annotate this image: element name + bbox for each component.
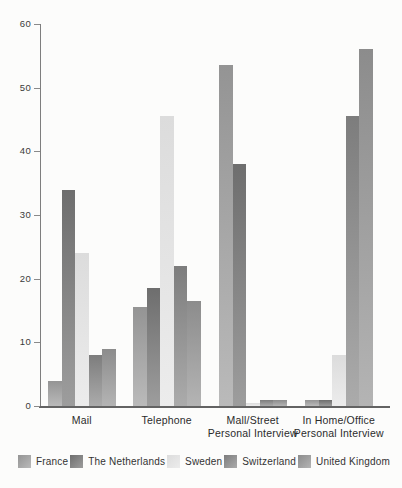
legend-item: France: [18, 455, 68, 468]
x-axis-line: [39, 406, 390, 408]
y-tick-mark: [34, 88, 40, 89]
y-tick-label: 30: [0, 209, 31, 221]
x-category-label: In Home/Office Personal Interview: [279, 414, 399, 440]
bar-sweden-2: [246, 403, 260, 406]
y-tick-label: 60: [0, 18, 31, 30]
y-tick-label: 40: [0, 145, 31, 157]
bar-sweden-0: [75, 253, 89, 406]
legend-swatch: [167, 455, 180, 468]
bar-switzerland-2: [260, 400, 274, 406]
legend-swatch: [18, 455, 31, 468]
legend-swatch: [298, 455, 311, 468]
legend-swatch: [224, 455, 237, 468]
bar-united-kingdom-0: [102, 349, 116, 406]
y-axis-line: [40, 24, 41, 407]
legend-label: United Kingdom: [316, 456, 390, 467]
legend-item: Switzerland: [224, 455, 296, 468]
y-tick-mark: [34, 215, 40, 216]
bar-sweden-1: [160, 116, 174, 406]
y-tick-mark: [34, 279, 40, 280]
legend-label: The Netherlands: [88, 456, 165, 467]
bar-france-0: [48, 381, 62, 406]
bar-the-netherlands-1: [147, 288, 161, 406]
bar-switzerland-3: [346, 116, 360, 406]
bar-switzerland-0: [89, 355, 103, 406]
legend: FranceThe NetherlandsSwedenSwitzerlandUn…: [18, 453, 390, 469]
legend-item: Sweden: [167, 455, 222, 468]
legend-label: Sweden: [185, 456, 222, 467]
legend-label: France: [36, 456, 68, 467]
legend-item: The Netherlands: [70, 455, 165, 468]
bar-chart-plot: 0102030405060 MailTelephoneMall/Street P…: [0, 0, 402, 452]
y-tick-label: 50: [0, 82, 31, 94]
bar-france-2: [219, 65, 233, 406]
legend-swatch: [70, 455, 83, 468]
bar-united-kingdom-3: [359, 49, 373, 406]
y-tick-mark: [34, 151, 40, 152]
y-tick-label: 0: [0, 400, 31, 412]
chart-figure: 0102030405060 MailTelephoneMall/Street P…: [0, 0, 402, 488]
bar-the-netherlands-0: [62, 190, 76, 406]
legend-item: United Kingdom: [298, 455, 390, 468]
bar-france-1: [133, 307, 147, 406]
y-tick-mark: [34, 24, 40, 25]
bar-united-kingdom-1: [187, 301, 201, 406]
bar-united-kingdom-2: [273, 400, 287, 406]
legend-label: Switzerland: [242, 456, 296, 467]
y-tick-label: 10: [0, 336, 31, 348]
bar-the-netherlands-2: [233, 164, 247, 406]
y-tick-label: 20: [0, 273, 31, 285]
y-tick-mark: [34, 342, 40, 343]
bar-the-netherlands-3: [319, 400, 333, 406]
bar-switzerland-1: [174, 266, 188, 406]
bar-france-3: [305, 400, 319, 406]
bar-sweden-3: [332, 355, 346, 406]
y-tick-mark: [34, 406, 40, 407]
